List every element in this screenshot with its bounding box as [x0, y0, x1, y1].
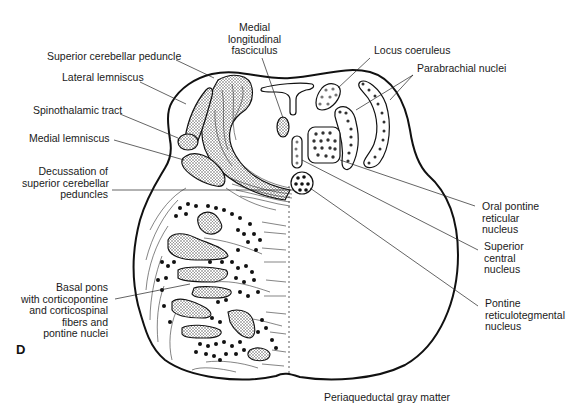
leader-superior-central: [302, 160, 478, 250]
label-parabrachial-nuclei: Parabrachial nuclei: [417, 63, 506, 75]
parabrachial-lateral-shape: [359, 81, 390, 168]
panel-letter: D: [16, 342, 25, 357]
fourth-ventricle: [261, 83, 314, 115]
figure-caption: Periaqueductal gray matter: [324, 391, 450, 403]
spinothalamic-tract-shape: [178, 134, 198, 150]
leader-basal-pons: [115, 284, 190, 299]
label-spinothalamic-tract: Spinothalamic tract: [33, 105, 122, 117]
mlf-shape: [277, 117, 289, 137]
label-superior-central-nucleus: Superior central nucleus: [484, 241, 524, 276]
label-superior-cerebellar-peduncle: Superior cerebellar peduncle: [47, 51, 181, 63]
leader-medial-lemniscus: [114, 140, 184, 160]
label-medial-lemniscus: Medial lemniscus: [29, 133, 110, 145]
leader-scp: [176, 60, 214, 78]
label-oral-pontine-reticular-nucleus: Oral pontine reticular nucleus: [482, 201, 539, 236]
locus-coeruleus-shape: [316, 84, 340, 110]
label-lateral-lemniscus: Lateral lemniscus: [62, 72, 144, 84]
label-decussation-scp: Decussation of superior cerebellar pedun…: [22, 166, 108, 201]
label-locus-coeruleus: Locus coeruleus: [374, 45, 450, 57]
leader-oral-pontine: [340, 160, 475, 206]
label-basal-pons: Basal pons with corticopontine and corti…: [10, 282, 108, 340]
leader-pontine-reticulotegmental: [310, 188, 478, 306]
label-pontine-reticulotegmental-nucleus: Pontine reticulotegmental nucleus: [485, 298, 565, 333]
label-medial-longitudinal-fasciculus: Medial longitudinal fasciculus: [228, 22, 281, 57]
